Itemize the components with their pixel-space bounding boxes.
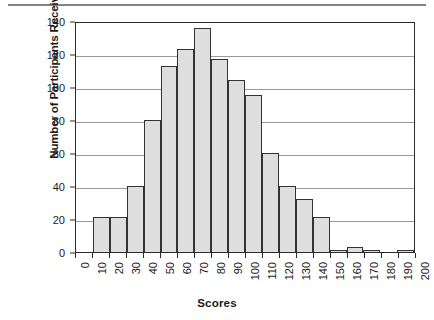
- x-tick-label: 60: [181, 260, 193, 272]
- y-axis: 020406080100120140: [75, 22, 415, 253]
- y-tick-label: 80: [19, 115, 65, 127]
- y-tick-label: 40: [19, 181, 65, 193]
- x-tick-label: 80: [215, 260, 227, 272]
- x-tick-mark: [296, 253, 297, 258]
- x-tick-label: 130: [300, 260, 312, 278]
- histogram-figure: Number of Participants Receiving Score 0…: [0, 0, 434, 320]
- y-tick-mark: [70, 187, 75, 188]
- x-tick-label: 40: [147, 260, 159, 272]
- y-tick-label: 60: [19, 148, 65, 160]
- x-tick-label: 200: [419, 260, 431, 278]
- x-tick-label: 180: [385, 260, 397, 278]
- page-top-rule: [8, 4, 426, 6]
- x-tick-mark: [211, 253, 212, 258]
- x-tick-label: 100: [249, 260, 261, 278]
- x-tick-label: 90: [232, 260, 244, 272]
- x-tick-label: 170: [368, 260, 380, 278]
- x-tick-label: 50: [164, 260, 176, 272]
- y-tick-label: 120: [19, 49, 65, 61]
- x-tick-mark: [228, 253, 229, 258]
- x-tick-mark: [313, 253, 314, 258]
- x-tick-mark: [143, 253, 144, 258]
- x-tick-mark: [330, 253, 331, 258]
- x-tick-mark: [279, 253, 280, 258]
- x-tick-mark: [177, 253, 178, 258]
- x-tick-label: 70: [198, 260, 210, 272]
- y-tick-mark: [70, 88, 75, 89]
- x-tick-label: 0: [79, 260, 91, 266]
- x-tick-mark: [92, 253, 93, 258]
- x-tick-mark: [194, 253, 195, 258]
- x-tick-label: 140: [317, 260, 329, 278]
- y-tick-label: 140: [19, 16, 65, 28]
- x-tick-mark: [364, 253, 365, 258]
- x-tick-label: 30: [130, 260, 142, 272]
- y-tick-mark: [70, 22, 75, 23]
- x-tick-mark: [262, 253, 263, 258]
- y-tick-mark: [70, 154, 75, 155]
- x-tick-mark: [245, 253, 246, 258]
- x-tick-mark: [415, 253, 416, 258]
- x-tick-mark: [347, 253, 348, 258]
- x-tick-mark: [160, 253, 161, 258]
- y-tick-mark: [70, 55, 75, 56]
- y-tick-mark: [70, 220, 75, 221]
- x-tick-mark: [398, 253, 399, 258]
- x-tick-mark: [109, 253, 110, 258]
- x-tick-label: 190: [402, 260, 414, 278]
- x-tick-label: 160: [351, 260, 363, 278]
- y-tick-label: 0: [19, 247, 65, 259]
- y-tick-mark: [70, 121, 75, 122]
- x-tick-label: 120: [283, 260, 295, 278]
- x-tick-label: 10: [96, 260, 108, 272]
- x-axis-title: Scores: [0, 297, 434, 309]
- y-tick-label: 20: [19, 214, 65, 226]
- x-tick-label: 20: [113, 260, 125, 272]
- x-tick-mark: [381, 253, 382, 258]
- x-tick-label: 150: [334, 260, 346, 278]
- x-tick-label: 110: [266, 260, 278, 278]
- x-tick-mark: [126, 253, 127, 258]
- y-tick-label: 100: [19, 82, 65, 94]
- x-tick-mark: [75, 253, 76, 258]
